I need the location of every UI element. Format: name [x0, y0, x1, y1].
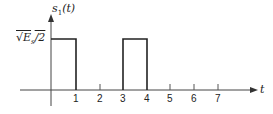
tick-label-6: 6 — [191, 93, 197, 104]
pulse-3-4 — [123, 39, 147, 90]
tick-label-7: 7 — [215, 93, 221, 104]
tick-label-5: 5 — [167, 93, 173, 104]
tick-label-1: 1 — [73, 93, 79, 104]
pulse-0-1 — [51, 39, 76, 90]
y-axis-label: s1(t) — [52, 2, 75, 17]
x-axis-label: t — [260, 83, 264, 96]
tick-label-2: 2 — [97, 93, 103, 104]
x-axis-arrow-icon — [250, 87, 258, 93]
pulse-plot — [0, 0, 273, 114]
x-ticks — [100, 84, 218, 90]
amplitude-label: √Es/2 — [16, 31, 45, 46]
tick-label-4: 4 — [144, 93, 150, 104]
tick-label-3: 3 — [120, 93, 126, 104]
